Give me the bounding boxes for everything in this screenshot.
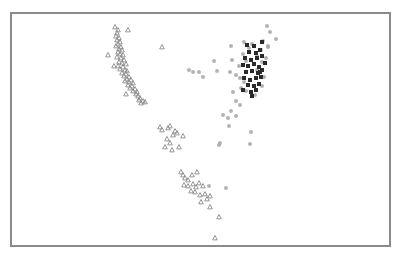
triangle-marker — [124, 92, 129, 96]
circle-marker — [226, 116, 230, 120]
triangle-marker — [205, 197, 210, 201]
triangle-marker — [163, 145, 168, 149]
circle-marker — [268, 30, 272, 34]
square-marker — [255, 56, 259, 60]
square-marker — [263, 61, 267, 65]
series-dark-squares — [241, 40, 267, 98]
circle-marker — [234, 73, 238, 77]
circle-marker — [237, 64, 241, 68]
circle-marker — [215, 69, 219, 73]
circle-marker — [201, 75, 205, 79]
triangle-marker — [195, 170, 200, 174]
circle-marker — [224, 186, 228, 190]
triangle-marker — [190, 173, 195, 177]
circle-marker — [229, 109, 233, 113]
triangle-marker — [113, 25, 118, 29]
circle-marker — [197, 70, 201, 74]
square-marker — [254, 88, 258, 92]
circle-marker — [221, 113, 225, 117]
circle-marker — [249, 130, 253, 134]
circle-marker — [241, 52, 245, 56]
square-marker — [260, 40, 264, 44]
triangle-marker — [213, 236, 218, 240]
square-marker — [257, 82, 261, 86]
triangle-marker — [170, 148, 175, 152]
triangle-marker — [181, 134, 186, 138]
triangle-marker — [193, 190, 198, 194]
circle-marker — [207, 184, 211, 188]
square-marker — [258, 48, 262, 52]
circle-marker — [231, 90, 235, 94]
triangle-marker — [186, 184, 191, 188]
triangle-marker — [168, 124, 173, 128]
scatter-plot — [0, 0, 397, 254]
circle-marker — [242, 80, 246, 84]
square-marker — [250, 69, 254, 73]
triangle-marker — [112, 64, 117, 68]
circle-marker — [234, 99, 238, 103]
circle-marker — [248, 142, 252, 146]
circle-marker — [212, 59, 216, 63]
square-marker — [241, 88, 245, 92]
triangle-marker — [115, 55, 120, 59]
circle-marker — [187, 68, 191, 72]
triangle-marker — [160, 45, 165, 49]
triangle-marker — [106, 53, 111, 57]
triangle-marker — [182, 183, 187, 187]
square-marker — [246, 83, 250, 87]
triangle-marker — [198, 193, 203, 197]
square-marker — [258, 70, 262, 74]
square-marker — [241, 63, 245, 67]
triangle-marker — [208, 205, 213, 209]
square-marker — [252, 84, 256, 88]
circle-marker — [218, 141, 222, 145]
series-light-circles — [187, 24, 278, 190]
square-marker — [259, 75, 263, 79]
triangle-marker — [203, 192, 208, 196]
square-marker — [254, 76, 258, 80]
circle-marker — [265, 24, 269, 28]
circle-marker — [227, 124, 231, 128]
triangle-marker — [191, 182, 196, 186]
square-marker — [260, 54, 264, 58]
square-marker — [254, 51, 258, 55]
square-marker — [252, 44, 256, 48]
circle-marker — [229, 44, 233, 48]
triangle-marker — [165, 137, 170, 141]
circle-marker — [228, 70, 232, 74]
triangle-marker — [189, 189, 194, 193]
series-triangles — [106, 25, 222, 240]
square-marker — [246, 64, 250, 68]
square-marker — [248, 78, 252, 82]
triangle-marker — [126, 28, 131, 32]
triangle-marker — [217, 215, 222, 219]
circle-marker — [274, 37, 278, 41]
circle-marker — [234, 114, 238, 118]
square-marker — [247, 50, 251, 54]
square-marker — [249, 90, 253, 94]
square-marker — [252, 62, 256, 66]
triangle-marker — [120, 61, 125, 65]
square-marker — [249, 58, 253, 62]
triangle-marker — [208, 194, 213, 198]
square-marker — [244, 70, 248, 74]
circle-marker — [191, 70, 195, 74]
circle-marker — [238, 103, 242, 107]
triangle-marker — [199, 200, 204, 204]
square-marker — [245, 43, 249, 47]
circle-marker — [264, 56, 268, 60]
triangle-marker — [120, 48, 125, 52]
circle-marker — [230, 58, 234, 62]
triangle-marker — [177, 145, 182, 149]
circle-marker — [238, 76, 242, 80]
circle-marker — [266, 45, 270, 49]
triangle-marker — [197, 181, 202, 185]
square-marker — [242, 76, 246, 80]
square-marker — [250, 94, 254, 98]
triangle-marker — [160, 128, 165, 132]
square-marker — [243, 56, 247, 60]
